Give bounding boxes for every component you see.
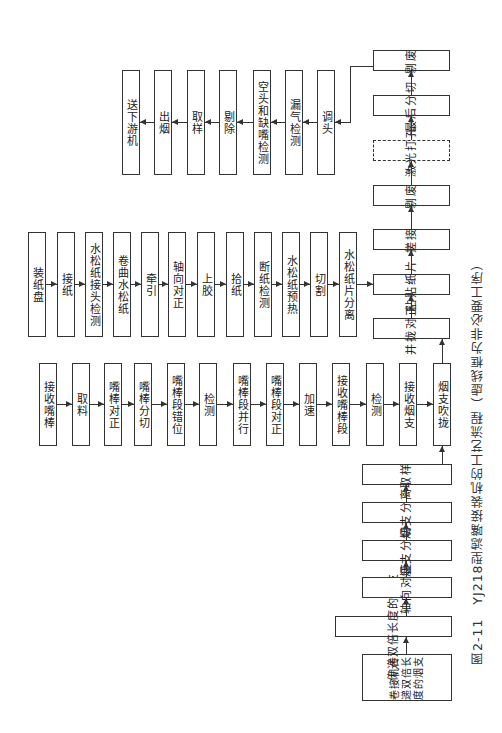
arrowhead-icon (172, 119, 178, 125)
arrowhead-icon (107, 281, 113, 287)
tip-step-accelerate: 加速 (299, 363, 317, 446)
tip-step-receive-cigarette: 接收烟支 (399, 363, 417, 446)
main-step-merge-align: 并拢对正 (373, 318, 450, 339)
main-step-sampling: 取样 (362, 464, 452, 485)
arrowhead-icon (326, 401, 332, 407)
tip-step-rod-cut: 嘴棒分切 (134, 363, 152, 446)
paper-step-separate: 水松纸片分离 (339, 232, 357, 337)
arrowhead-icon (98, 401, 104, 407)
arrowhead-icon (303, 119, 309, 125)
paper-step-splice: 接纸 (57, 232, 75, 337)
arrowhead-icon (140, 119, 146, 125)
arrowhead-icon (248, 281, 254, 287)
arrowhead-icon (408, 206, 414, 212)
main-step-double-length: 传递双倍长度的烟支 (335, 616, 452, 637)
paper-step-preheat: 水松纸预热 (282, 232, 300, 337)
arrowhead-icon (161, 401, 167, 407)
arrowhead-icon (271, 119, 277, 125)
arrowhead-icon (333, 281, 339, 287)
arrowhead-icon (135, 281, 141, 287)
main-step-laser-perforation: 激光打孔 (373, 140, 450, 161)
main-step-rolling: 搓接 (373, 229, 450, 250)
arrowhead-icon (162, 281, 168, 287)
arrowhead-icon (51, 281, 57, 287)
main-step-final-cut: 最后分切 (373, 95, 450, 116)
arrowhead-icon (260, 401, 266, 407)
arrowhead-icon (205, 119, 211, 125)
main-step-axial-align: 轴向对正 (362, 577, 452, 598)
arrowhead-icon (360, 401, 366, 407)
connector (350, 66, 351, 123)
arrowhead-icon (403, 523, 409, 529)
paper-step-cut: 切割 (310, 232, 328, 337)
output-step-sampling: 取样 (187, 70, 205, 175)
arrowhead-icon (227, 401, 233, 407)
arrowhead-icon (393, 401, 399, 407)
arrowhead-icon (439, 446, 445, 452)
arrowhead-icon (304, 281, 310, 287)
arrowhead-icon (193, 401, 199, 407)
arrowhead-icon (403, 561, 409, 567)
tip-step-receive-rod: 接收嘴棒 (39, 363, 57, 446)
paper-step-splice-check: 水松纸接头检测 (85, 232, 103, 337)
paper-step-axial-align: 轴向对正 (168, 232, 186, 337)
output-step-leak-check: 漏气检测 (285, 70, 303, 175)
arrowhead-icon (220, 281, 226, 287)
arrowhead-icon (408, 295, 414, 301)
tip-step-inspect-2: 检测 (366, 363, 384, 446)
paper-step-glue: 上胶 (197, 232, 215, 337)
arrowhead-icon (237, 119, 243, 125)
main-step-maker-delivery: 卷接机传递双倍长度的烟支 (362, 654, 452, 701)
arrowhead-icon (191, 281, 197, 287)
arrowhead-icon (439, 339, 445, 345)
main-step-cigarette-separate: 烟支分离 (362, 502, 452, 523)
output-step-empty-tip-check: 空头和缺嘴检测 (253, 70, 271, 175)
arrowhead-icon (79, 281, 85, 287)
output-step-reject: 剔除 (219, 70, 237, 175)
tip-step-receive-segment: 接收嘴棒段 (332, 363, 350, 446)
arrowhead-icon (403, 598, 409, 604)
output-step-to-downstream: 送下游机 (122, 70, 140, 175)
arrowhead-icon (293, 401, 299, 407)
arrowhead-icon (408, 250, 414, 256)
main-step-reject-2: 剔废 (373, 50, 450, 71)
arrowhead-icon (408, 71, 414, 77)
arrowhead-icon (276, 281, 282, 287)
main-step-reject-1: 剔废 (373, 185, 450, 206)
main-step-blow-together: 烟支吹拢 (433, 363, 451, 446)
arrowhead-icon (335, 119, 341, 125)
tip-step-segment-parallel: 嘴棒段并行 (233, 363, 251, 446)
tip-step-segment-align: 嘴棒段对正 (266, 363, 284, 446)
arrowhead-icon (128, 401, 134, 407)
main-step-attach-paper: 粘贴纸片 (373, 274, 450, 295)
output-step-turnaround: 调头 (317, 70, 335, 175)
tip-step-inspect-1: 检测 (199, 363, 217, 446)
main-step-cigarette-cut: 烟支分切 (362, 540, 452, 561)
arrowhead-icon (408, 161, 414, 167)
tip-step-rod-align: 嘴棒对正 (104, 363, 122, 446)
tip-step-segment-offset: 嘴棒段错位 (167, 363, 185, 446)
arrowhead-icon (66, 401, 72, 407)
arrowhead-icon (408, 116, 414, 122)
paper-step-curl: 卷曲水松纸 (113, 232, 131, 337)
arrowhead-icon (403, 637, 409, 643)
paper-step-traction: 牵引 (141, 232, 159, 337)
arrowhead-icon (403, 485, 409, 491)
paper-step-pickup: 拾纸 (226, 232, 244, 337)
paper-step-break-check: 断纸检测 (254, 232, 272, 337)
tip-step-take-material: 取料 (72, 363, 90, 446)
connector (350, 66, 374, 67)
output-step-discharge: 出烟 (154, 70, 172, 175)
figure-caption: 图2-11 YJ218型滤嘴接装机的工艺流程（虚线框为非必要工序） (468, 245, 487, 665)
paper-step-load-reel: 装纸盘 (28, 232, 46, 337)
